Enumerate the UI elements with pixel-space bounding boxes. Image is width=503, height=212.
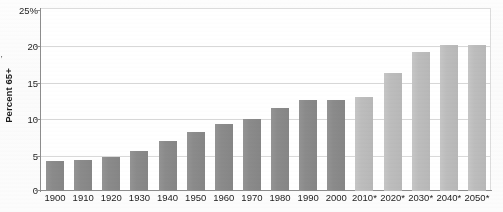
bar-fill [327, 100, 345, 191]
y-axis-tick-labels: 25% 20 15 10 5 0 [0, 0, 38, 212]
bar-fill [215, 124, 233, 191]
bar-fill [468, 45, 486, 191]
bar-2040-projected [440, 45, 458, 191]
bar-1950 [187, 132, 205, 191]
bar-fill [440, 45, 458, 191]
bar-fill [243, 119, 261, 191]
x-axis-tick-labels: 1900191019201930194019501960197019801990… [41, 193, 491, 212]
bar-fill [412, 52, 430, 191]
bar-fill [159, 141, 177, 191]
bar-1960 [215, 124, 233, 191]
bar-fill [130, 151, 148, 191]
bar-1930 [130, 151, 148, 191]
bar-fill [355, 97, 373, 191]
bar-fill [384, 73, 402, 191]
bar-fill [299, 100, 317, 192]
bar-1990 [299, 100, 317, 192]
bar-fill [271, 108, 289, 191]
bar-fill [187, 132, 205, 191]
bar-1900 [46, 161, 64, 191]
bar-2000 [327, 100, 345, 191]
bar-fill [74, 160, 92, 191]
x-tick-label-2050-projected: 2050* [458, 193, 496, 203]
bar-series [41, 8, 491, 191]
bar-1910 [74, 160, 92, 191]
bar-fill [46, 161, 64, 191]
bar-1980 [271, 108, 289, 191]
bar-1940 [159, 141, 177, 191]
bar-2050-projected [468, 45, 486, 191]
bar-fill [102, 157, 120, 191]
bar-2030-projected [412, 52, 430, 191]
bar-1970 [243, 119, 261, 191]
chart-figure: Percent 65+ 25% 20 15 10 5 0 19001910192… [0, 0, 503, 212]
bar-2010-projected [355, 97, 373, 191]
bar-1920 [102, 157, 120, 191]
bar-2020-projected [384, 73, 402, 191]
